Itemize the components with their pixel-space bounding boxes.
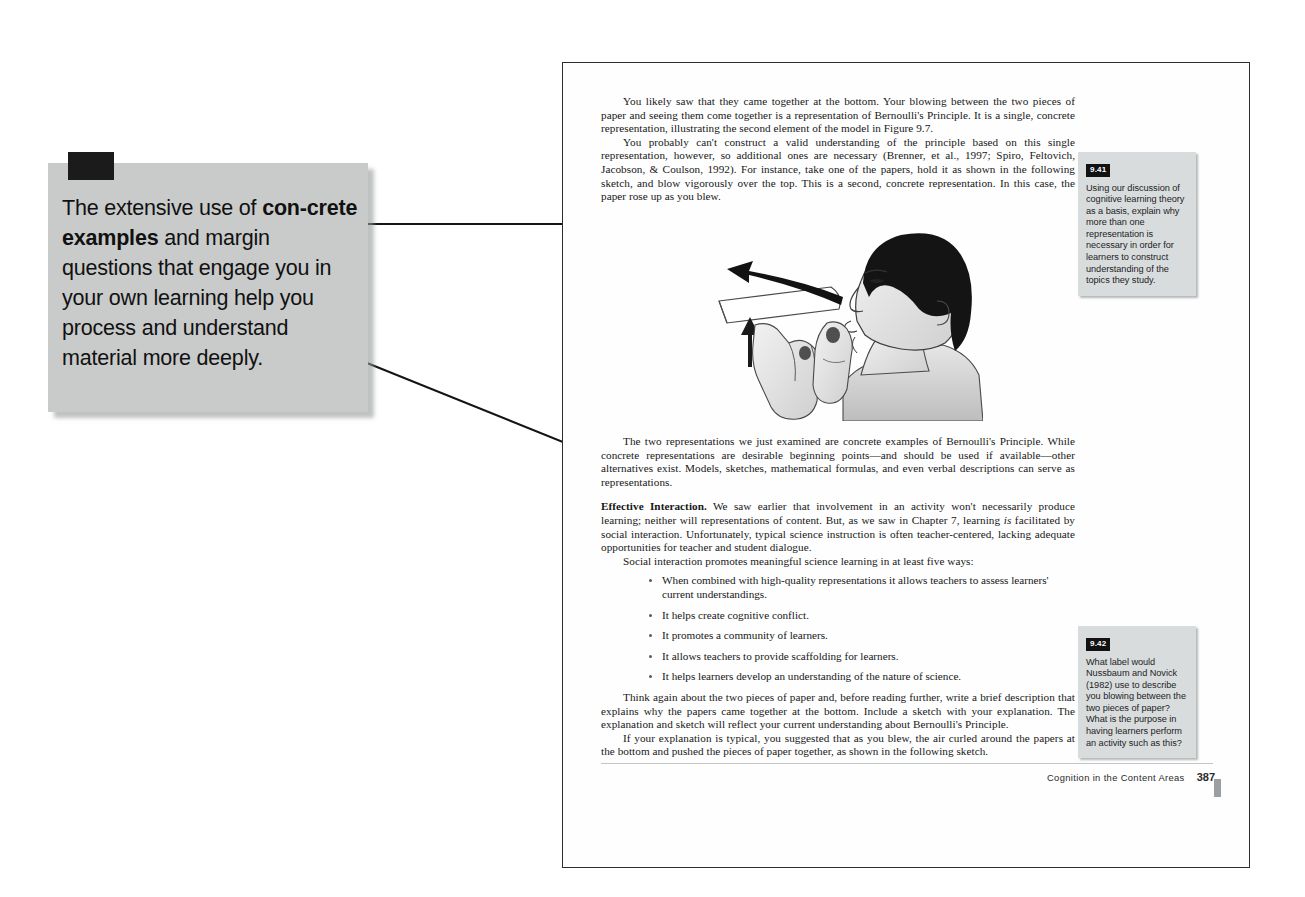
page-text-column-top: You likely saw that they came together a… <box>601 95 1075 204</box>
list-item-label: It promotes a community of learners. <box>662 629 828 641</box>
bullet-dot-icon <box>649 655 652 658</box>
paragraph-1: You likely saw that they came together a… <box>601 95 1075 136</box>
list-item: It allows teachers to provide scaffoldin… <box>649 650 1075 664</box>
margin-note-text: Using our discussion of cognitive learni… <box>1086 183 1189 287</box>
black-square-marker-icon <box>68 152 114 180</box>
feature-callout-text: The extensive use of con-crete examples … <box>62 193 362 373</box>
bullet-dot-icon <box>649 675 652 678</box>
paragraph-2: You probably can't construct a valid und… <box>601 136 1075 204</box>
benefits-list: When combined with high-quality represen… <box>601 574 1075 684</box>
bullet-dot-icon <box>649 614 652 617</box>
list-item: It promotes a community of learners. <box>649 629 1075 643</box>
callout-text-lead: The extensive use of <box>62 196 262 220</box>
bullet-dot-icon <box>649 579 652 582</box>
page-footer: Cognition in the Content Areas387 <box>601 771 1215 783</box>
list-item-label: It allows teachers to provide scaffoldin… <box>662 650 899 662</box>
footer-divider <box>601 763 1213 764</box>
list-item: It helps create cognitive conflict. <box>649 609 1075 623</box>
page-text-column-bottom: The two representations we just examined… <box>601 435 1075 759</box>
paragraph-5: Social interaction promotes meaningful s… <box>601 555 1075 569</box>
margin-note-9-41: 9.41 Using our discussion of cognitive l… <box>1078 152 1196 296</box>
paragraph-3: The two representations we just examined… <box>601 435 1075 489</box>
page-number: 387 <box>1197 771 1215 783</box>
margin-note-9-42: 9.42 What label would Nussbaum and Novic… <box>1078 626 1196 758</box>
list-item: It helps learners develop an understandi… <box>649 670 1075 684</box>
paragraph-6: Think again about the two pieces of pape… <box>601 691 1075 732</box>
list-item-label: It helps create cognitive conflict. <box>662 609 809 621</box>
list-item: When combined with high-quality represen… <box>649 574 1075 601</box>
person-blowing-over-paper-illustration <box>693 225 983 421</box>
list-item-label: When combined with high-quality represen… <box>662 574 1049 600</box>
margin-note-badge: 9.42 <box>1086 638 1110 651</box>
hand-shape <box>753 324 820 420</box>
margin-note-badge: 9.41 <box>1086 164 1110 177</box>
page-edge-tab <box>1214 779 1221 797</box>
margin-note-text: What label would Nussbaum and Novick (19… <box>1086 657 1189 750</box>
figure-blowing-over-paper <box>601 225 1075 425</box>
thumbnail <box>826 327 840 343</box>
paragraph-4: Effective Interaction. We saw earlier th… <box>601 500 1075 554</box>
bullet-dot-icon <box>649 634 652 637</box>
list-item-label: It helps learners develop an understandi… <box>662 670 961 682</box>
paragraph-7: If your explanation is typical, you sugg… <box>601 732 1075 759</box>
subsection-heading: Effective Interaction. <box>601 500 707 512</box>
running-head: Cognition in the Content Areas <box>1047 772 1185 783</box>
fingernail <box>799 346 811 360</box>
chin-shape <box>852 337 857 353</box>
